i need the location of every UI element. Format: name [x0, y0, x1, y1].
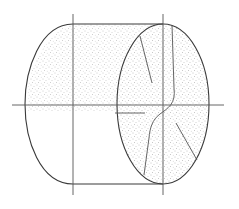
- cylinder-diagram: [0, 0, 239, 209]
